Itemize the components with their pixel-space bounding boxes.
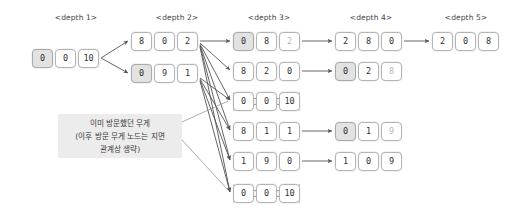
depth4-node3-cell-2: 1 — [358, 122, 379, 141]
depth4-node4-cell-3: 9 — [381, 152, 402, 171]
depth3-node5-cell-3: 0 — [279, 152, 300, 171]
depth2-node2-cell-2: 9 — [154, 64, 175, 83]
depth-label-3: <depth 3> — [248, 13, 290, 22]
edge-d1-d2a — [101, 41, 128, 58]
depth3-node6: 0010 — [233, 184, 300, 203]
depth2-node1-cell-1: 8 — [131, 32, 152, 51]
depth4-node1-cell-3: 0 — [381, 32, 402, 51]
diagram-canvas: <depth 1><depth 2><depth 3><depth 4><dep… — [0, 0, 532, 222]
depth5-node1-cell-2: 0 — [455, 32, 476, 51]
depth2-node1: 802 — [131, 32, 198, 51]
edge-d2b-d3e — [200, 80, 230, 160]
depth1-node1-cell-2: 0 — [55, 49, 76, 68]
edge-d2b-d3c — [200, 78, 230, 100]
depth3-node2: 820 — [233, 62, 300, 81]
depth3-node6-cell-2: 0 — [256, 184, 277, 203]
depth2-node1-cell-3: 2 — [177, 32, 198, 51]
depth3-node3: 0010 — [233, 92, 300, 111]
depth3-node3-cell-3: 10 — [279, 92, 300, 111]
edge-d2a-d3c — [200, 44, 230, 100]
depth4-node2-cell-1: 0 — [335, 62, 356, 81]
depth3-node3-cell-1: 0 — [233, 92, 254, 111]
depth3-node3-cell-2: 0 — [256, 92, 277, 111]
depth5-node1-cell-1: 2 — [432, 32, 453, 51]
depth4-node1-cell-2: 8 — [358, 32, 379, 51]
depth3-node5-cell-2: 9 — [256, 152, 277, 171]
edge-d2b-d3d — [200, 79, 230, 130]
depth2-node2-cell-1: 0 — [131, 64, 152, 83]
depth2-node2-cell-3: 1 — [177, 64, 198, 83]
depth5-node1: 208 — [432, 32, 499, 51]
depth3-node4-cell-3: 1 — [279, 122, 300, 141]
depth3-node1-cell-1: 0 — [233, 32, 254, 51]
depth3-node2-cell-2: 2 — [256, 62, 277, 81]
annotation-line-1: 이미 방문했던 무게 — [64, 117, 176, 130]
depth4-node2: 028 — [335, 62, 402, 81]
edge-d2a-d3e — [200, 46, 230, 160]
depth5-node1-cell-3: 8 — [478, 32, 499, 51]
depth3-node4: 811 — [233, 122, 300, 141]
depth4-node4-cell-1: 1 — [335, 152, 356, 171]
edge-d1-d2b — [101, 58, 128, 73]
depth-label-1: <depth 1> — [55, 13, 97, 22]
depth3-node4-cell-2: 1 — [256, 122, 277, 141]
depth1-node1-cell-1: 0 — [32, 49, 53, 68]
edge-note-d3f — [182, 140, 228, 190]
depth3-node1-cell-2: 8 — [256, 32, 277, 51]
depth4-node4: 109 — [335, 152, 402, 171]
annotation-line-2: (이후 방문 무게 노드는 지면 — [64, 130, 176, 143]
depth4-node2-cell-2: 2 — [358, 62, 379, 81]
depth3-node2-cell-3: 0 — [279, 62, 300, 81]
depth2-node2: 091 — [131, 64, 198, 83]
edge-note-d3c — [182, 101, 228, 122]
depth4-node3: 019 — [335, 122, 402, 141]
annotation-note: 이미 방문했던 무게 (이후 방문 무게 노드는 지면 관계상 생략) — [58, 114, 182, 158]
depth4-node1: 280 — [335, 32, 402, 51]
edge-d2a-d3f — [200, 47, 230, 192]
edge-d2a-d3d — [200, 45, 230, 130]
depth-label-4: <depth 4> — [350, 13, 392, 22]
depth3-node1: 082 — [233, 32, 300, 51]
depth4-node3-cell-3: 9 — [381, 122, 402, 141]
depth3-node6-cell-1: 0 — [233, 184, 254, 203]
depth-label-2: <depth 2> — [156, 13, 198, 22]
annotation-line-3: 관계상 생략) — [64, 143, 176, 156]
depth3-node2-cell-1: 8 — [233, 62, 254, 81]
depth1-node1-cell-3: 10 — [78, 49, 99, 68]
depth2-node1-cell-2: 0 — [154, 32, 175, 51]
depth4-node3-cell-1: 0 — [335, 122, 356, 141]
depth-label-5: <depth 5> — [445, 13, 487, 22]
depth3-node1-cell-3: 2 — [279, 32, 300, 51]
depth3-node4-cell-1: 8 — [233, 122, 254, 141]
depth4-node2-cell-3: 8 — [381, 62, 402, 81]
depth1-node1: 0010 — [32, 49, 99, 68]
depth4-node4-cell-2: 0 — [358, 152, 379, 171]
depth4-node1-cell-1: 2 — [335, 32, 356, 51]
depth3-node6-cell-3: 10 — [279, 184, 300, 203]
edge-d2a-d3b — [200, 43, 230, 70]
edge-d2b-d3f — [200, 81, 230, 192]
depth3-node5-cell-1: 1 — [233, 152, 254, 171]
depth3-node5: 190 — [233, 152, 300, 171]
